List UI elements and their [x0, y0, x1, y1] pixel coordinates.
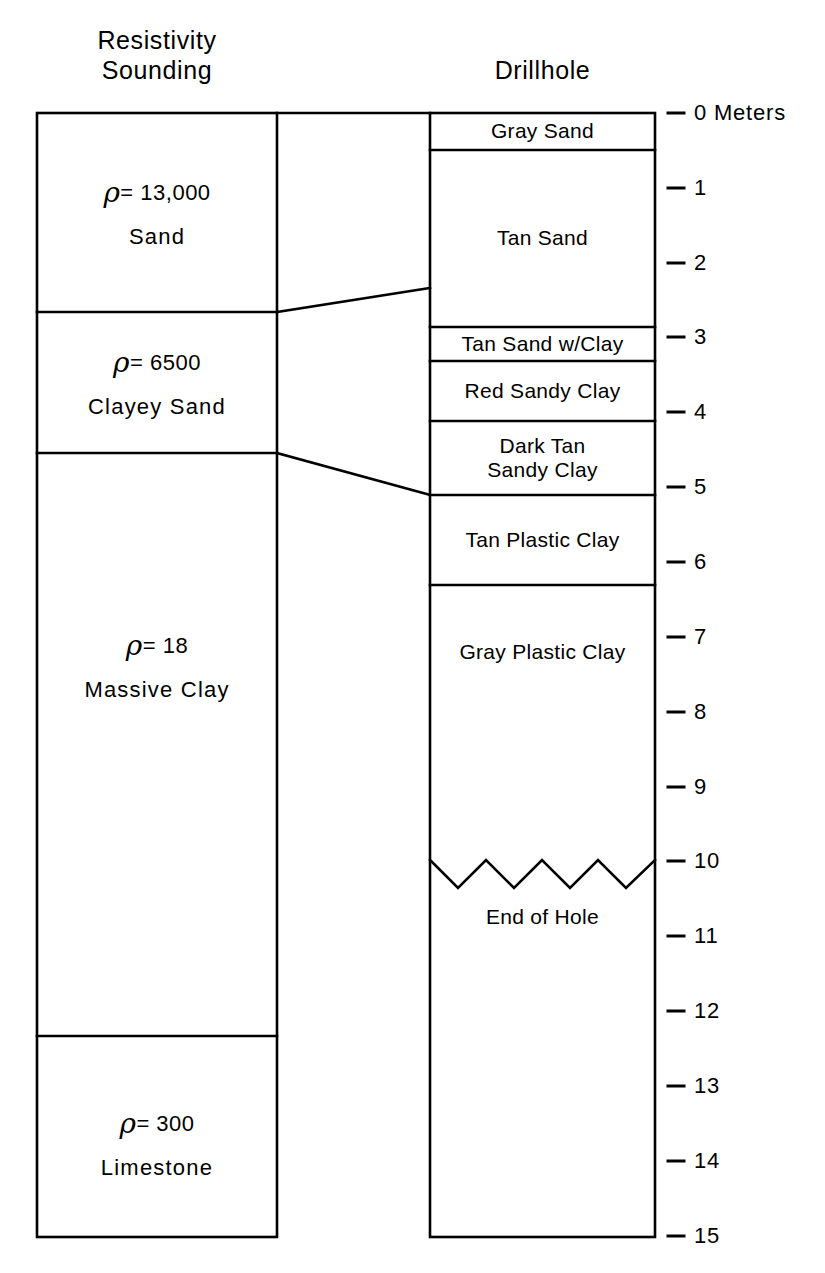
depth-label-13: 13 — [694, 1075, 720, 1097]
depth-label-0: 0 Meters — [694, 102, 786, 124]
correlation-line-upper — [277, 288, 430, 312]
depth-label-6: 6 — [694, 551, 707, 573]
depth-label-14: 14 — [694, 1150, 720, 1172]
depth-label-15: 15 — [694, 1225, 720, 1247]
depth-label-2: 2 — [694, 252, 707, 274]
depth-label-9: 9 — [694, 776, 707, 798]
end-of-hole-zigzag — [430, 860, 655, 888]
depth-scale-ticks — [668, 113, 684, 1236]
correlation-line-lower — [277, 453, 430, 495]
depth-label-5: 5 — [694, 476, 707, 498]
depth-label-12: 12 — [694, 1000, 720, 1022]
depth-label-3: 3 — [694, 326, 707, 348]
drillhole-box — [430, 113, 655, 1237]
depth-label-7: 7 — [694, 626, 707, 648]
depth-label-4: 4 — [694, 401, 707, 423]
depth-label-1: 1 — [694, 177, 707, 199]
depth-label-8: 8 — [694, 701, 707, 723]
geologic-correlation-figure: Resistivity Sounding Drillhole — [0, 0, 825, 1273]
resistivity-box — [37, 113, 277, 1237]
depth-label-10: 10 — [694, 850, 720, 872]
depth-label-11: 11 — [694, 925, 718, 947]
